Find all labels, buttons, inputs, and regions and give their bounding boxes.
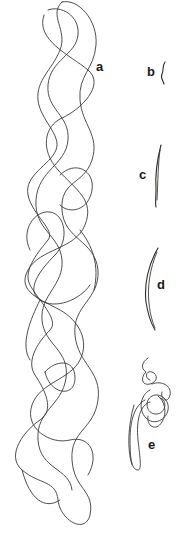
panel-a-strand xyxy=(15,2,98,525)
panel-a-label: a xyxy=(96,60,103,73)
panel-c-label: c xyxy=(139,168,146,181)
panel-b-label: b xyxy=(147,65,155,78)
panel-e-strand xyxy=(129,358,170,470)
panel-e-label: e xyxy=(148,438,155,451)
figure: a b c d e xyxy=(0,0,180,533)
panel-d-label: d xyxy=(157,278,165,291)
panel-c-strand xyxy=(156,145,161,207)
panel-b-strand xyxy=(161,62,165,84)
strand-drawings xyxy=(0,0,180,533)
